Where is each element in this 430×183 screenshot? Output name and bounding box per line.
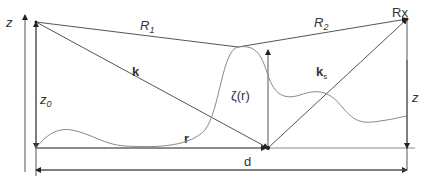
z0-label: z0 — [39, 92, 52, 109]
scattering-diagram: z z0 d R1 R2 Rx k ks r ζ(r) z — [0, 0, 430, 183]
r1-path — [36, 22, 238, 47]
k-vector — [36, 22, 268, 148]
k-label: k — [132, 64, 140, 79]
tx-point — [35, 21, 38, 24]
z-right-label: z — [411, 90, 419, 105]
r2-label: R2 — [314, 15, 328, 32]
z-axis-label: z — [5, 15, 13, 30]
zeta-label: ζ(r) — [231, 88, 250, 103]
rough-surface — [36, 47, 407, 148]
ks-label: ks — [316, 64, 327, 81]
rx-point — [406, 18, 409, 21]
r-label: r — [184, 131, 189, 146]
r1-label: R1 — [140, 18, 154, 35]
rx-label: Rx — [392, 5, 408, 20]
scatter-point — [266, 146, 270, 150]
d-label: d — [244, 154, 251, 169]
